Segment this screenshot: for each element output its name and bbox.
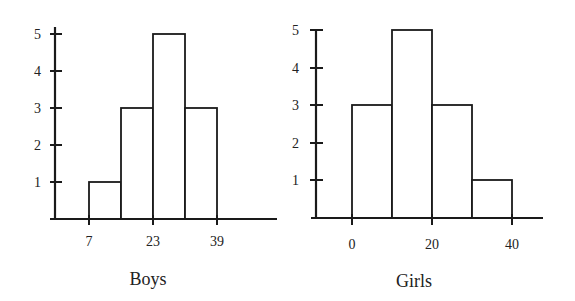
girls-y-label-1: 1 [292,173,299,188]
girls-bar-10-20 [392,30,432,218]
girls-bar-0-10 [352,105,392,218]
boys-bar-7-15 [89,182,121,219]
girls-bar-30-40 [472,180,512,218]
girls-title: Girls [396,271,432,291]
histograms-figure: 1 2 3 4 5 7 23 39 Boys 1 2 3 4 [0,0,575,301]
girls-y-label-2: 2 [292,136,299,151]
girls-x-label-40: 40 [505,237,519,252]
boys-bar-31-39 [185,108,217,219]
boys-histogram: 1 2 3 4 5 7 23 39 Boys [34,27,277,289]
girls-y-label-4: 4 [292,61,299,76]
girls-bar-20-30 [432,105,472,218]
boys-y-label-1: 1 [34,175,41,190]
girls-histogram: 1 2 3 4 5 0 20 40 Girls [292,23,543,291]
boys-bar-23-31 [153,34,185,219]
boys-y-label-4: 4 [34,64,41,79]
boys-title: Boys [129,269,166,289]
boys-y-label-3: 3 [34,101,41,116]
boys-x-label-23: 23 [146,234,160,249]
boys-y-label-2: 2 [34,138,41,153]
girls-y-label-3: 3 [292,98,299,113]
girls-x-label-20: 20 [425,237,439,252]
boys-x-label-7: 7 [86,234,93,249]
girls-y-label-5: 5 [292,23,299,38]
girls-x-label-0: 0 [349,237,356,252]
boys-x-label-39: 39 [210,234,224,249]
boys-y-label-5: 5 [34,27,41,42]
boys-bar-15-23 [121,108,153,219]
